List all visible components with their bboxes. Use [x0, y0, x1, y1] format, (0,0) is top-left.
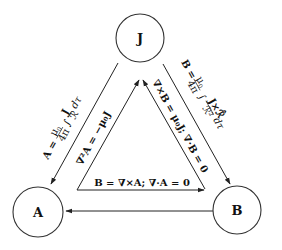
label-a-to-j: ∇²A = −μ₀J: [74, 109, 113, 167]
jb-dtau: dτ: [211, 115, 227, 131]
aj-equation: ∇²A = −μ₀J: [74, 109, 113, 167]
node-a-label: A: [32, 205, 44, 220]
edge-a-to-j: [77, 80, 139, 190]
ja-dtau: dτ: [68, 94, 84, 110]
node-b: B: [213, 186, 261, 234]
ja-r: ℛ: [67, 109, 80, 121]
ja-lhs: A =: [40, 138, 60, 161]
ja-integral: ∫: [61, 118, 73, 128]
node-j: J: [116, 14, 164, 62]
label-b-to-j: ∇×B = μ₀J; ∇·B = 0: [150, 78, 210, 175]
node-a: A: [13, 187, 63, 237]
bj-equation: ∇×B = μ₀J; ∇·B = 0: [150, 78, 210, 175]
jb-integral: ∫: [196, 92, 208, 102]
potential-field-current-triangle-diagram: J A B A = μ0 4π ∫ J ℛ dτ ∇²A = −μ₀J B = …: [0, 0, 282, 250]
node-j-label: J: [136, 31, 143, 46]
ab-equation: B = ∇×A; ∇·A = 0: [94, 177, 190, 188]
node-b-label: B: [232, 203, 243, 218]
jb-lhs: B =: [179, 58, 198, 81]
